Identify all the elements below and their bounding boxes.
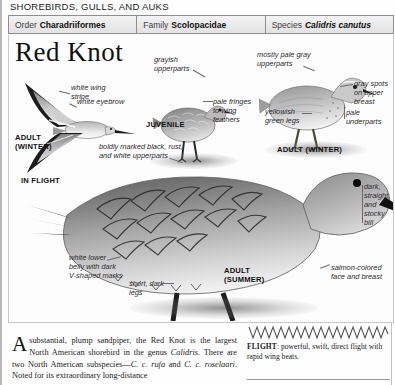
- bird-adult-summer-illustration: [27, 153, 394, 321]
- taxonomy-value-order: Charadriiformes: [40, 20, 106, 30]
- caption-juvenile: JUVENILE: [146, 120, 185, 129]
- right-margin-rule: [391, 323, 392, 385]
- caption-adult-summer: ADULT (SUMMER): [224, 266, 264, 285]
- running-head: SHOREBIRDS, GULLS, AND AUKS: [10, 1, 169, 12]
- illustration-plate: Red Knot: [8, 35, 394, 323]
- taxonomy-key-family: Family: [143, 20, 168, 30]
- callout-gray-spots-upper-breast: gray spots on upper breast: [354, 79, 388, 106]
- callout-salmon-colored-face: salmon-colored face and breast: [331, 263, 382, 281]
- callout-pale-fringes: pale fringes to wing feathers: [213, 97, 251, 124]
- page-title: Red Knot: [15, 39, 123, 66]
- taxonomy-value-species: Calidris canutus: [305, 20, 371, 30]
- drop-cap: A: [12, 335, 29, 353]
- taxonomy-key-order: Order: [15, 20, 37, 30]
- callout-short-dark-legs: short, dark legs: [129, 279, 164, 297]
- flight-label: FLIGHT: [247, 342, 277, 351]
- taxonomy-cell-family: Family Scolopacidae: [137, 16, 265, 33]
- species-description: A substantial, plump sandpiper, the Red …: [12, 335, 237, 382]
- field-guide-page: SHOREBIRDS, GULLS, AND AUKS Order Charad…: [0, 0, 395, 385]
- callout-grayish-upperparts: grayish upperparts: [154, 55, 189, 73]
- callout-white-eyebrow: white eyebrow: [77, 97, 124, 106]
- description-text: substantial, plump sandpiper, the Red Kn…: [12, 336, 237, 380]
- caption-adult-winter-flight: ADULT (WINTER): [15, 133, 52, 152]
- leader-grayish-upperparts: [193, 70, 206, 78]
- taxonomy-cell-species: Species Calidris canutus: [266, 16, 393, 33]
- leader-pale-underparts: [344, 105, 345, 119]
- taxonomy-value-family: Scolopacidae: [171, 20, 226, 30]
- adult-summer-shadow: [129, 297, 319, 319]
- flight-wave-icon: [247, 325, 390, 340]
- taxonomy-bar: Order Charadriiformes Family Scolopacida…: [8, 15, 394, 34]
- callout-pale-underparts: pale underparts: [346, 108, 381, 126]
- leader-yellowish-green-legs: [302, 113, 312, 114]
- leader-short-dark-legs: [162, 283, 174, 284]
- flight-section: FLIGHT: powerful, swift, direct flight w…: [247, 325, 390, 362]
- leader-bill: [362, 185, 363, 223]
- callout-yellowish-green-legs: yellowish green legs: [265, 107, 300, 125]
- callout-dark-straight-stocky-bill: dark, straight, and stocky bill: [364, 182, 390, 227]
- leader-pale-fringes: [203, 101, 213, 102]
- taxonomy-key-species: Species: [272, 20, 302, 30]
- flight-description: FLIGHT: powerful, swift, direct flight w…: [247, 342, 390, 362]
- flight-bottom-rule: [247, 379, 390, 380]
- taxonomy-cell-order: Order Charadriiformes: [9, 16, 137, 33]
